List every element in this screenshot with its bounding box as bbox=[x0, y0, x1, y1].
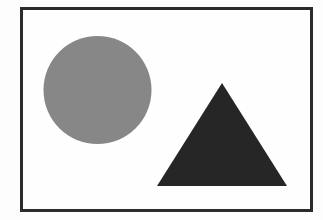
figure-canvas bbox=[23, 10, 310, 209]
triangle-shape bbox=[157, 83, 287, 186]
screenshot-root bbox=[0, 0, 323, 220]
figure-frame bbox=[20, 7, 313, 212]
circle-shape bbox=[44, 36, 152, 144]
